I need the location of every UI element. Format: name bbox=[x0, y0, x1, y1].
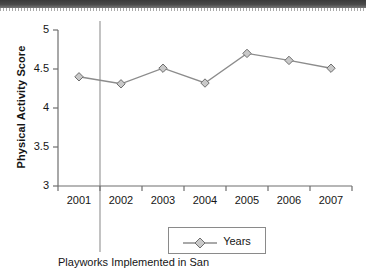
x-tick-label: 2003 bbox=[143, 194, 183, 206]
y-tick-label: 3 bbox=[19, 179, 49, 191]
data-point-marker bbox=[285, 56, 293, 64]
legend-diamond-marker-icon bbox=[183, 235, 217, 247]
scan-header-band bbox=[0, 0, 366, 8]
y-tick-label: 4 bbox=[19, 101, 49, 113]
data-point-marker bbox=[75, 73, 83, 81]
x-tick-label: 2005 bbox=[227, 194, 267, 206]
x-tick-label: 2001 bbox=[59, 194, 99, 206]
x-tick-label: 2006 bbox=[269, 194, 309, 206]
y-tick-label: 5 bbox=[19, 23, 49, 35]
data-point-marker bbox=[327, 64, 335, 72]
chart-page: Physical Activity Score 33.544.55 200120… bbox=[0, 0, 366, 275]
data-point-marker bbox=[243, 49, 251, 57]
figure-caption: Playworks Implemented in San bbox=[58, 256, 209, 268]
x-tick-label: 2004 bbox=[185, 194, 225, 206]
x-axis-ticks bbox=[58, 186, 352, 191]
data-point-marker bbox=[159, 64, 167, 72]
chart-legend[interactable]: Years bbox=[168, 227, 266, 254]
y-tick-label: 3.5 bbox=[19, 140, 49, 152]
x-tick-label: 2002 bbox=[101, 194, 141, 206]
y-axis-ticks bbox=[53, 30, 58, 186]
data-point-marker bbox=[117, 80, 125, 88]
y-tick-label: 4.5 bbox=[19, 62, 49, 74]
line-chart-figure: Physical Activity Score 33.544.55 200120… bbox=[0, 11, 366, 275]
legend-label-years: Years bbox=[223, 235, 251, 247]
x-tick-label: 2007 bbox=[311, 194, 351, 206]
